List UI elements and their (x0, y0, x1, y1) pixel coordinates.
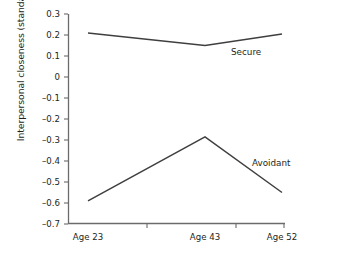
y-tick-label: –0.4 (26, 156, 60, 166)
y-axis-ticks (64, 14, 68, 224)
y-tick-label: 0.3 (26, 9, 60, 19)
axis-lines (68, 14, 285, 224)
x-tick-label-1: Age 43 (175, 232, 235, 242)
y-tick-label: –0.2 (26, 114, 60, 124)
y-tick-label: 0.1 (26, 51, 60, 61)
y-tick-label: 0 (26, 72, 60, 82)
y-tick-label: –0.6 (26, 198, 60, 208)
series-lines (88, 33, 282, 201)
x-axis-ticks (147, 224, 284, 228)
y-tick-label: –0.7 (26, 219, 60, 229)
y-tick-label: 0.2 (26, 30, 60, 40)
series-label-secure: Secure (231, 47, 261, 57)
series-line-avoidant (88, 137, 282, 201)
y-tick-label: –0.5 (26, 177, 60, 187)
chart-figure: Interpersonal closeness (standard scores… (0, 0, 348, 254)
y-tick-label: –0.3 (26, 135, 60, 145)
y-tick-label: –0.1 (26, 93, 60, 103)
x-tick-label-2: Age 52 (252, 232, 312, 242)
series-label-avoidant: Avoidant (252, 158, 291, 168)
series-line-secure (88, 33, 282, 46)
x-tick-label-0: Age 23 (58, 232, 118, 242)
